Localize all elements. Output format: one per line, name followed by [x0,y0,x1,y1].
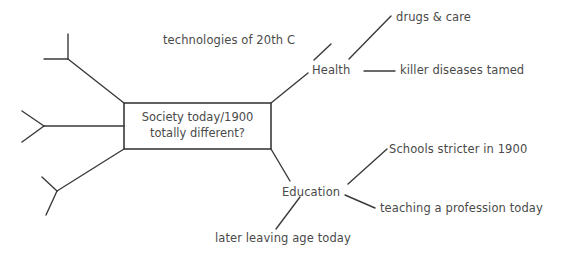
label-technologies-of-20th-c[interactable]: technologies of 20th C [163,33,295,47]
connector-center-to-health [271,73,308,103]
stub-empty-middle-left-down [22,126,44,142]
label-teaching-a-profession-today[interactable]: teaching a profession today [380,201,543,215]
node-label-education[interactable]: Education [282,185,340,199]
connector-education-to-later-leaving-age [276,197,300,229]
stub-empty-bottom-left-up [42,177,57,191]
label-killer-diseases-tamed[interactable]: killer diseases tamed [400,63,524,77]
center-node-line-1: Society today/1900 [142,110,254,126]
center-node-line-2: totally different? [150,126,245,142]
connector-health-to-technologies [314,44,331,60]
center-node-text: Society today/1900 totally different? [124,103,271,149]
connector-center-to-empty-bottom-left [57,149,124,191]
connector-center-to-empty-top-left [68,59,124,103]
stub-empty-bottom-left-down [46,191,57,215]
stub-empty-middle-left-up [22,111,44,126]
connector-education-to-teaching-profession [345,195,375,208]
connector-education-to-schools-stricter [348,149,387,184]
node-label-health[interactable]: Health [312,63,350,77]
connector-health-to-drugs-care [349,16,391,59]
label-schools-stricter-in-1900[interactable]: Schools stricter in 1900 [389,142,527,156]
mindmap-canvas: Society today/1900 totally different? te… [0,0,578,262]
label-drugs-and-care[interactable]: drugs & care [396,10,471,24]
label-later-leaving-age-today[interactable]: later leaving age today [215,231,351,245]
connector-center-to-education [271,149,290,181]
